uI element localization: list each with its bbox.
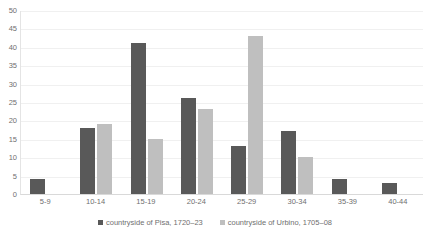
bar-pisa-25-29[interactable] [231,146,246,194]
y-axis-tick: 0 [13,191,17,199]
legend-item[interactable]: countryside of Urbino, 1705–08 [220,218,332,227]
y-axis-tick: 5 [13,173,17,181]
y-axis-tick: 15 [9,136,17,144]
x-axis-label: 10-14 [70,197,120,206]
legend-swatch-icon [220,220,225,225]
bar-pisa-20-24[interactable] [181,98,196,194]
legend-label: countryside of Pisa, 1720–23 [106,218,203,227]
bar-group [21,11,71,194]
x-axis-label: 30-34 [272,197,322,206]
y-axis-tick: 35 [9,62,17,70]
y-axis-tick: 50 [9,7,17,15]
bar-group [122,11,172,194]
bar-pisa-10-14[interactable] [80,128,95,194]
chart-legend: countryside of Pisa, 1720–23countryside … [0,218,430,227]
x-axis-label: 15-19 [121,197,171,206]
x-axis-label: 35-39 [322,197,372,206]
bar-urbino-25-29[interactable] [248,36,263,194]
y-axis-tick: 25 [9,99,17,107]
bar-group [323,11,373,194]
bar-urbino-15-19[interactable] [148,139,163,194]
bar-pisa-35-39[interactable] [332,179,347,194]
bar-pisa-30-34[interactable] [281,131,296,194]
bar-chart: 50454035302520151050 5-910-1415-1920-242… [0,0,430,231]
legend-item[interactable]: countryside of Pisa, 1720–23 [98,218,203,227]
bars-layer [21,11,423,194]
plot-area [20,11,423,195]
y-axis: 50454035302520151050 [0,11,20,195]
x-axis: 5-910-1415-1920-2425-2930-3435-3940-44 [20,197,423,206]
bar-urbino-20-24[interactable] [198,109,213,194]
bar-pisa-15-19[interactable] [131,43,146,194]
y-axis-tick: 45 [9,25,17,33]
bar-group [172,11,222,194]
x-axis-label: 20-24 [171,197,221,206]
y-axis-tick: 20 [9,117,17,125]
bar-group [222,11,272,194]
chart-title [0,0,430,4]
bar-urbino-10-14[interactable] [97,124,112,194]
y-axis-tick: 40 [9,44,17,52]
bar-urbino-30-34[interactable] [298,157,313,194]
bar-group [373,11,423,194]
x-axis-label: 25-29 [222,197,272,206]
bar-group [272,11,322,194]
legend-label: countryside of Urbino, 1705–08 [228,218,332,227]
y-axis-tick: 10 [9,154,17,162]
y-axis-tick: 30 [9,81,17,89]
bar-group [71,11,121,194]
bar-pisa-5-9[interactable] [30,179,45,194]
x-axis-label: 40-44 [373,197,423,206]
legend-swatch-icon [98,220,103,225]
x-axis-label: 5-9 [20,197,70,206]
bar-pisa-40-44[interactable] [382,183,397,194]
